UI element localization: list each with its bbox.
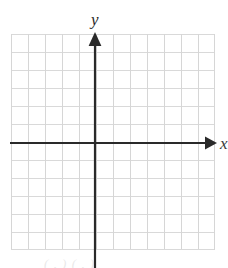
coordinate-plane <box>11 34 215 250</box>
graph-figure: f(x) = (x − ) y x ( , ) ( , ) <box>0 0 228 268</box>
clipped-text-below: ( , ) ( , ) <box>44 256 228 268</box>
grid-lines <box>11 34 215 250</box>
y-axis-label: y <box>91 11 99 28</box>
x-axis-label: x <box>220 135 228 152</box>
